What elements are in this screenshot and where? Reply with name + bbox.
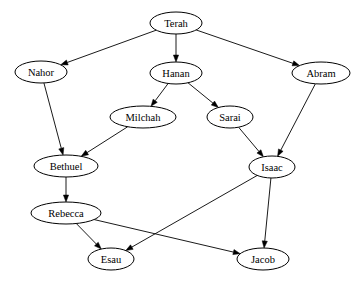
edge-line [67,30,156,62]
node-terah: Terah [150,12,202,34]
node-esau: Esau [88,248,134,270]
arrowhead-icon [292,61,299,66]
node-label: Nahor [28,67,55,78]
node-label: Hanan [162,68,190,79]
arrowhead-icon [233,250,240,255]
node-abram: Abram [292,62,350,84]
node-rebecca: Rebecca [31,202,101,224]
edge-terah-to-hanan [173,34,178,62]
edge-abram-to-isaac [278,84,316,157]
node-label: Rebecca [48,208,84,219]
edge-line [155,83,168,100]
edge-terah-to-nahor [61,30,157,65]
edge-line [94,220,233,253]
edge-line [132,175,257,247]
edge-terah-to-abram [196,30,299,66]
node-label: Sarai [219,112,241,123]
edge-line [239,127,259,151]
arrowhead-icon [126,245,133,251]
edge-line [188,83,213,103]
node-nahor: Nahor [15,61,67,83]
edge-isaac-to-esau [126,175,257,250]
edge-line [44,83,61,148]
arrowhead-icon [81,150,88,156]
edge-line [87,127,128,153]
node-sarai: Sarai [207,106,253,128]
node-label: Esau [101,254,122,265]
node-isaac: Isaac [249,156,295,178]
family-tree-graph: TerahNahorHananAbramMilchahSaraiBethuelI… [0,0,363,283]
node-jacob: Jacob [237,248,289,270]
node-milchah: Milchah [110,106,176,128]
edge-nahor-to-bethuel [44,83,64,155]
edge-line [265,178,271,241]
edge-isaac-to-jacob [262,178,271,248]
node-label: Milchah [126,112,162,123]
edge-milchah-to-bethuel [81,127,127,157]
node-hanan: Hanan [150,62,202,84]
edge-sarai-to-isaac [239,127,264,157]
arrowhead-icon [173,55,178,62]
arrowhead-icon [151,99,157,106]
edge-line [196,30,293,63]
edge-line [76,224,96,245]
edge-hanan-to-milchah [151,83,168,106]
node-bethuel: Bethuel [34,155,98,177]
node-label: Bethuel [50,161,83,172]
node-label: Terah [164,18,188,29]
node-label: Abram [306,68,335,79]
edge-hanan-to-sarai [188,83,218,108]
arrowhead-icon [61,60,68,65]
edge-bethuel-to-rebecca [63,177,68,202]
edge-rebecca-to-esau [76,224,101,250]
edge-line [281,84,316,150]
node-label: Jacob [251,254,275,265]
arrowhead-icon [278,149,284,156]
node-label: Isaac [261,162,283,173]
arrowhead-icon [59,148,64,155]
arrowhead-icon [63,195,68,202]
arrowhead-icon [262,241,267,248]
nodes-layer: TerahNahorHananAbramMilchahSaraiBethuelI… [15,12,350,270]
